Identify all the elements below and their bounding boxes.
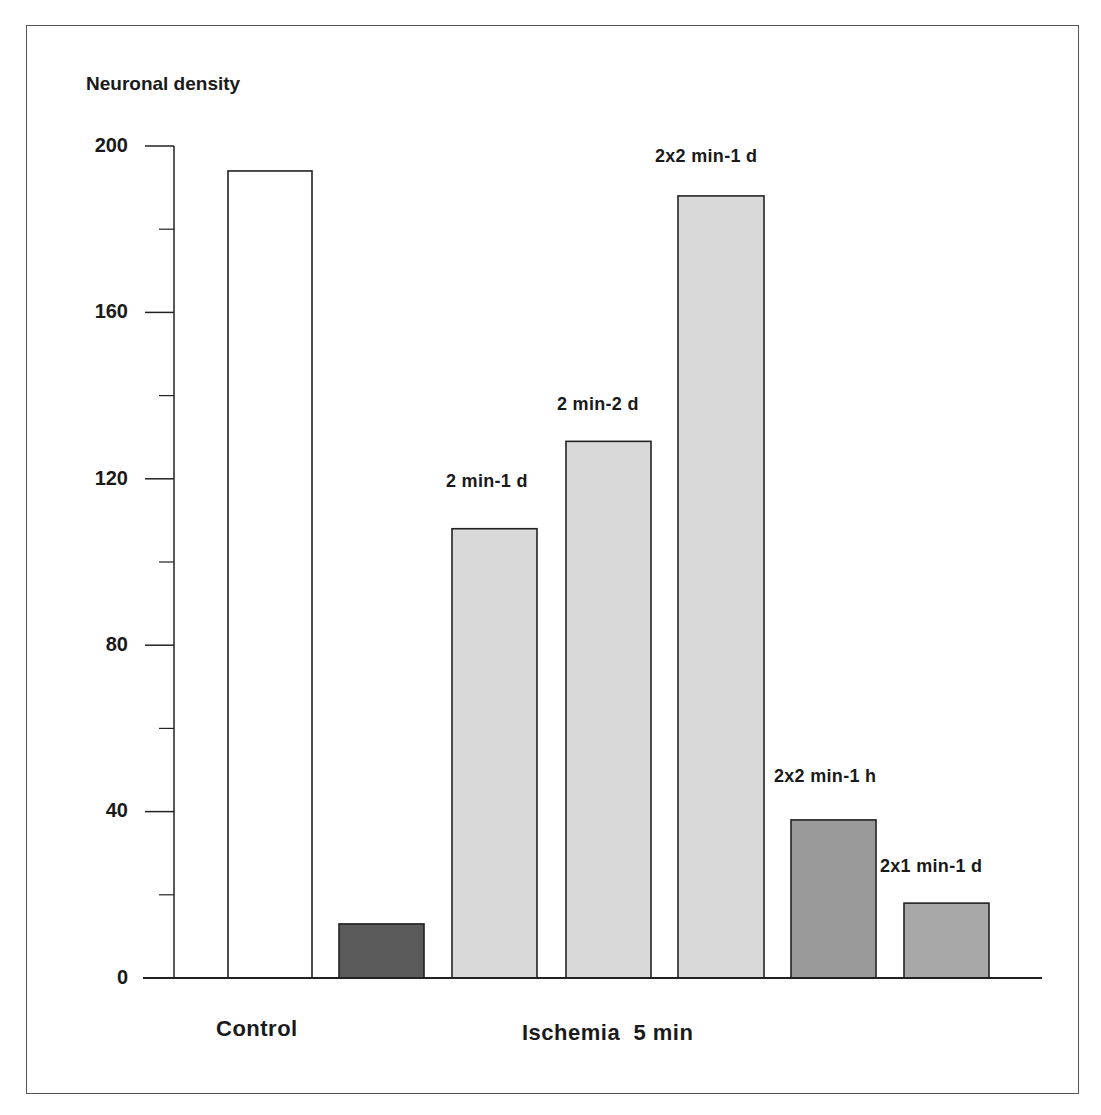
bar-3 bbox=[452, 529, 537, 978]
y-tick-label-0: 0 bbox=[68, 966, 128, 989]
y-tick-label-200: 200 bbox=[68, 134, 128, 157]
bar-7 bbox=[904, 903, 989, 978]
bar-1 bbox=[228, 171, 312, 978]
bar-4 bbox=[566, 441, 651, 978]
y-tick-label-120: 120 bbox=[68, 467, 128, 490]
bar-label-2x2min-1h: 2x2 min-1 h bbox=[774, 766, 876, 787]
bar-2 bbox=[339, 924, 424, 978]
bar-6 bbox=[791, 820, 876, 978]
y-tick-label-80: 80 bbox=[68, 633, 128, 656]
bar-label-2x2min-1d: 2x2 min-1 d bbox=[655, 146, 757, 167]
group-label-control: Control bbox=[216, 1016, 298, 1042]
bar-chart bbox=[0, 0, 1101, 1115]
bar-label-2min-1d: 2 min-1 d bbox=[446, 471, 528, 492]
y-tick-label-160: 160 bbox=[68, 300, 128, 323]
bar-label-2min-2d: 2 min-2 d bbox=[557, 394, 639, 415]
group-label-ischemia: Ischemia 5 min bbox=[522, 1020, 693, 1046]
bar-5 bbox=[678, 196, 764, 978]
y-tick-label-40: 40 bbox=[68, 799, 128, 822]
bar-label-2x1min-1d: 2x1 min-1 d bbox=[880, 856, 982, 877]
y-axis-title: Neuronal density bbox=[86, 73, 240, 95]
